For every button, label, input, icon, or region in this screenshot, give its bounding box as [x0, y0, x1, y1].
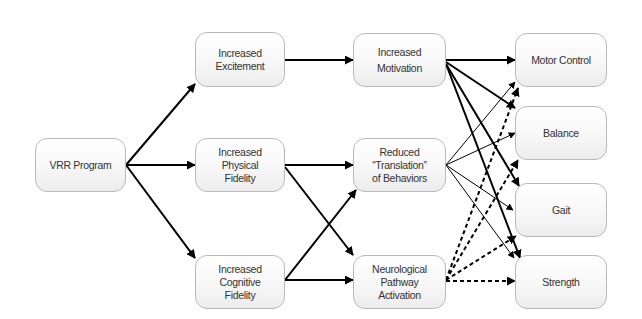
node-reduced-translation: Reduced “Translation” of Behaviors [353, 138, 446, 192]
node-vrr-program: VRR Program [35, 138, 126, 192]
node-motor-control: Motor Control [515, 33, 607, 87]
edge-motivation-balance [446, 62, 515, 108]
node-increased-excitement: Increased Excitement [195, 32, 285, 87]
edge-reduced-gait [446, 165, 513, 210]
edge-reduced-strength [446, 165, 514, 258]
node-neurological-pathway-activation: Neurological Pathway Activation [353, 255, 446, 309]
node-gait: Gait [515, 183, 607, 237]
edge-motivation-gait [446, 64, 519, 186]
edge-physical-neuro [285, 167, 353, 255]
edge-neuro-balance [446, 160, 518, 280]
node-increased-physical-fidelity: Increased Physical Fidelity [195, 138, 285, 192]
node-balance: Balance [515, 106, 607, 160]
edge-neuro-gait [446, 236, 516, 280]
edge-vrr-excitement [126, 84, 195, 165]
edge-cognitive-reduced [285, 190, 356, 280]
edge-vrr-cognitive [126, 165, 195, 258]
node-increased-cognitive-fidelity: Increased Cognitive Fidelity [195, 255, 285, 309]
edge-motivation-strength [446, 64, 520, 258]
node-increased-motivation: Increased Motivation [353, 33, 446, 87]
node-strength: Strength [515, 255, 607, 309]
edge-neuro-motor [446, 88, 518, 280]
